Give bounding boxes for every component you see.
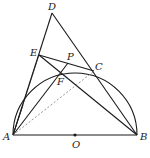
segment-AC-dashed (13, 71, 94, 135)
label-E: E (29, 47, 38, 58)
semicircle-arc (13, 73, 137, 135)
label-O: O (72, 139, 80, 150)
label-B: B (139, 131, 147, 142)
label-D: D (47, 1, 56, 12)
label-P: P (66, 51, 74, 62)
label-A: A (2, 131, 10, 142)
label-C: C (95, 61, 103, 72)
geometry-diagram: D E P C F A B O (0, 0, 150, 158)
label-F: F (56, 76, 65, 87)
segment-AP (13, 63, 68, 135)
point-O (73, 133, 76, 136)
